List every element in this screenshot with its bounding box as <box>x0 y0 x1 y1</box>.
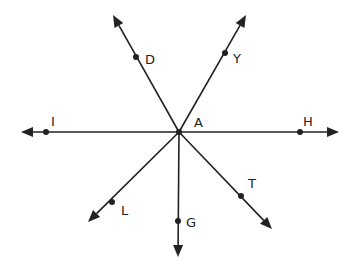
ray-line-D <box>119 25 179 132</box>
point-D <box>133 54 139 60</box>
arrowhead-icon <box>236 15 246 28</box>
arrowhead-icon <box>113 15 123 28</box>
label-G: G <box>186 215 196 230</box>
label-Y: Y <box>232 51 241 66</box>
ray-line-Y <box>179 25 240 132</box>
point-A <box>176 129 182 135</box>
point-Y <box>222 50 228 56</box>
point-H <box>297 129 303 135</box>
point-L <box>109 199 115 205</box>
label-A: A <box>194 115 203 130</box>
geometry-diagram: A D Y I H L G T <box>0 0 345 265</box>
labels-group: A D Y I H L G T <box>51 51 313 230</box>
arrowhead-icon <box>173 245 183 257</box>
point-T <box>238 193 244 199</box>
label-I: I <box>51 114 55 129</box>
arrowhead-icon <box>327 127 339 137</box>
ray-line-L <box>97 132 179 214</box>
label-D: D <box>145 52 155 67</box>
arrowhead-icon <box>21 127 33 137</box>
label-L: L <box>121 203 129 218</box>
label-H: H <box>303 114 313 129</box>
ray-line-G <box>178 132 179 245</box>
point-G <box>175 218 181 224</box>
point-I <box>43 129 49 135</box>
label-T: T <box>247 176 256 191</box>
